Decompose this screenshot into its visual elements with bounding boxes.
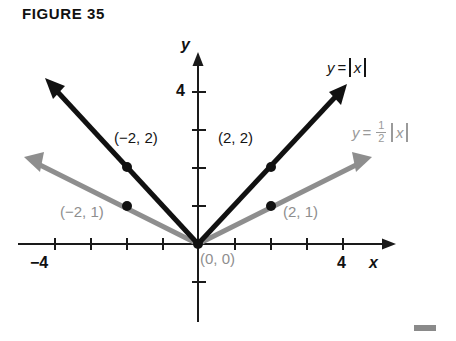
y-axis-arrowhead — [193, 52, 204, 66]
y-tick-label-4: 4 — [176, 82, 185, 100]
equation-half-equals: = — [363, 124, 372, 141]
label-point-pos2-2: (2, 2) — [218, 129, 253, 146]
fraction-one-half: 1 2 — [376, 120, 386, 144]
equation-half-abs-x: y = 1 2 x — [352, 120, 408, 144]
label-point-pos2-1: (2, 1) — [283, 203, 318, 220]
equation-half-absolute: x — [391, 123, 408, 142]
label-point-neg2-1: (−2, 1) — [60, 203, 104, 220]
equation-abs-x-absolute: x — [349, 58, 366, 77]
x-tick-label-4: 4 — [337, 254, 346, 272]
x-axis-label: x — [369, 254, 378, 272]
x-tick-label-neg4: −4 — [30, 254, 48, 272]
absolute-value-graph — [0, 0, 456, 341]
point-pos2-1 — [266, 201, 276, 211]
x-axis-arrowhead — [382, 239, 396, 250]
label-point-neg2-2: (−2, 2) — [114, 129, 158, 146]
equation-abs-x-var: x — [351, 59, 365, 76]
equation-abs-x-y: y — [327, 59, 335, 76]
label-point-origin: (0, 0) — [200, 250, 235, 267]
equation-abs-x-equals: = — [338, 59, 347, 76]
point-origin — [193, 239, 203, 249]
corner-dash-mark — [414, 325, 436, 331]
point-neg2-1 — [122, 201, 132, 211]
point-neg2-2 — [122, 162, 132, 172]
equation-abs-x: y = x — [327, 58, 366, 77]
point-pos2-2 — [266, 162, 276, 172]
fraction-numerator: 1 — [376, 120, 386, 132]
gray-left-arrowhead — [24, 152, 44, 172]
fraction-denominator: 2 — [376, 132, 386, 145]
abs-bar-right-icon — [364, 58, 366, 77]
y-axis-label: y — [181, 36, 190, 54]
equation-half-var: x — [393, 124, 407, 141]
abs-bar-right-icon — [406, 123, 408, 142]
gray-right-arrowhead — [352, 152, 372, 172]
equation-half-y: y — [352, 124, 360, 141]
